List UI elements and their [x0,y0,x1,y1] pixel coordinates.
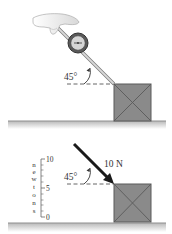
force-label: 10 N [104,159,123,169]
bottom-panel: 10 5 0 n e w t o n s [8,144,166,232]
box-top [114,84,151,121]
scale-tick-5: 5 [46,184,50,193]
top-panel: 45° [8,14,166,129]
svg-text:t: t [33,183,35,191]
angle-label-bottom: 45° [64,172,78,182]
scale-unit-label: n e w t o n s [31,161,37,215]
scale-tick-10: 10 [46,155,54,164]
hand-icon [33,14,79,35]
angle-label-top: 45° [64,72,78,82]
floor-bottom [8,223,166,232]
svg-text:s: s [33,207,36,215]
scale-tick-0: 0 [46,213,50,222]
svg-text:w: w [31,175,37,183]
svg-text:n: n [32,199,36,207]
physics-diagram: 45° 10 5 0 n e [0,0,172,234]
svg-text:o: o [32,191,36,199]
floor-top [8,121,166,129]
box-bottom [114,184,151,222]
spring-scale-dial-icon [68,33,88,53]
newton-scale: 10 5 0 n e w t o n s [31,155,53,222]
